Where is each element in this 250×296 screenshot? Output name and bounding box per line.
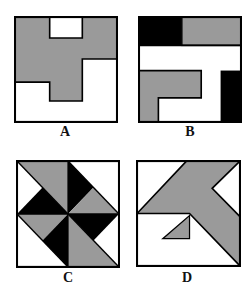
label-a: A [55,124,75,140]
pattern-b-figure [138,16,242,123]
panel-a [14,16,118,123]
pattern-a-figure [14,16,118,123]
label-d: D [177,270,197,286]
panel-d [136,160,241,267]
pattern-d-figure [136,160,241,267]
pattern-c-figure [16,160,120,268]
label-b: B [180,124,200,140]
label-c: C [58,270,78,286]
panel-c [16,160,120,268]
panel-b [138,16,242,123]
